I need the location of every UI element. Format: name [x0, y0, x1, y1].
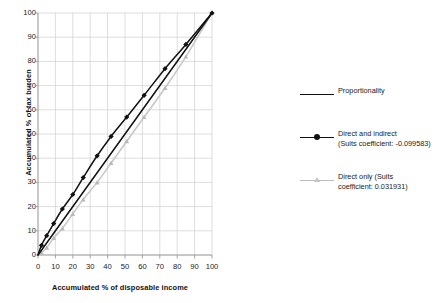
legend-swatch-direct-and-indirect — [300, 133, 334, 142]
plot-area — [0, 0, 442, 303]
chart-root: Accumulated % of tax burden Accumulated … — [0, 0, 442, 303]
legend-label-direct-and-indirect: Direct and indirect (Suits coefficient: … — [338, 129, 442, 148]
legend-swatch-proportionality — [300, 90, 334, 99]
legend-label-direct-only: Direct only (Suits coefficient: 0.031931… — [338, 172, 442, 191]
legend-label-proportionality: Proportionality — [338, 86, 442, 96]
legend-swatch-direct-only — [300, 176, 334, 185]
